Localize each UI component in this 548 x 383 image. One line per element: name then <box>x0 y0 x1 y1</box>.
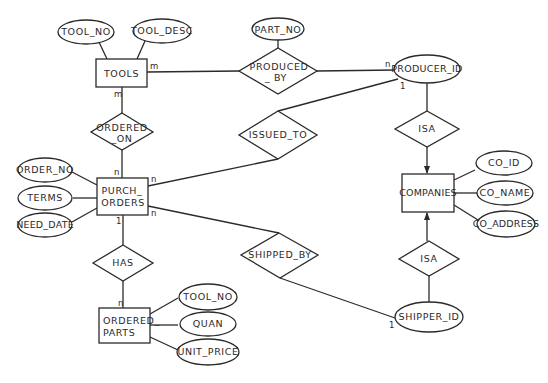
attribute-label: CO_NAME <box>480 187 531 198</box>
edge-tools-tooldesc <box>137 41 145 59</box>
arrowhead-icon <box>424 212 430 220</box>
attribute-part-no[interactable]: PART_NO <box>252 18 304 40</box>
cardinality-label: m <box>114 89 122 99</box>
attribute-need-date[interactable]: NEED_DATE <box>16 213 74 237</box>
attribute-label: TERMS <box>26 192 63 203</box>
attribute-label: ORDER_NO <box>16 164 74 175</box>
relationship-produced-by[interactable]: PRODUCED _ BY <box>239 48 317 94</box>
edge-op-toolno <box>150 298 178 314</box>
entity-label: COMPANIES <box>399 187 457 198</box>
attribute-tool-no[interactable]: TOOL_NO <box>58 20 114 44</box>
edge-po-needdate <box>72 208 97 222</box>
entity-companies[interactable]: COMPANIES <box>399 174 457 212</box>
cardinality-label: m <box>150 61 158 71</box>
relationship-shipped-by[interactable]: SHIPPED_BY <box>241 233 318 278</box>
attribute-label: UNIT_PRICE <box>177 346 238 357</box>
arrowhead-icon <box>424 166 430 174</box>
cardinality-label: n <box>151 208 156 218</box>
entity-label: ORDERED_ <box>103 315 160 326</box>
attribute-label: PART_NO <box>255 24 302 35</box>
relationship-issued-to[interactable]: ISSUED_TO <box>239 111 317 159</box>
relationship-has[interactable]: HAS <box>93 245 153 281</box>
edge-po-shippedby <box>148 206 279 233</box>
cardinality-label: 1 <box>389 320 394 330</box>
relationship-isa-bottom[interactable]: ISA <box>399 241 459 276</box>
attribute-order-no[interactable]: ORDER_NO <box>16 158 74 182</box>
entity-tools[interactable]: TOOLS <box>96 59 147 87</box>
relationship-label: HAS <box>112 257 133 268</box>
relationship-ordered-on[interactable]: ORDERED _ON <box>91 113 153 150</box>
attribute-label: CO_ID <box>488 157 520 168</box>
cardinality-label: n <box>118 298 123 308</box>
er-diagram: TOOLS PURCH_ ORDERS ORDERED_ PARTS COMPA… <box>0 0 548 383</box>
attribute-label: NEED_DATE <box>16 219 74 230</box>
relationship-label: _ON <box>110 133 132 144</box>
attribute-label: TOOL_NO <box>182 291 233 302</box>
relationship-label: PRODUCED <box>250 61 309 72</box>
entity-label: PURCH_ <box>102 185 143 196</box>
edge-shippedby-shipper <box>280 278 395 318</box>
attribute-co-id[interactable]: CO_ID <box>476 151 532 175</box>
entity-label: TOOLS <box>103 68 139 79</box>
attribute-tool-desc[interactable]: TOOL_DESC <box>130 19 193 43</box>
attribute-terms[interactable]: TERMS <box>18 186 72 210</box>
attribute-producer-id[interactable]: PRODUCER_ID <box>391 55 462 83</box>
cardinality-label: n <box>114 167 119 177</box>
attribute-unit-price[interactable]: UNIT_PRICE <box>177 339 239 365</box>
attribute-op-tool-no[interactable]: TOOL_NO <box>179 284 237 310</box>
entity-label: PARTS <box>103 327 135 338</box>
entity-label: ORDERS <box>101 197 145 208</box>
cardinality-label: 1 <box>116 216 121 226</box>
attribute-label: QUAN <box>193 318 223 329</box>
attribute-quan[interactable]: QUAN <box>180 312 236 336</box>
edge-companies-coid <box>454 170 475 180</box>
relationship-label: _ BY <box>264 72 287 83</box>
cardinality-label: n <box>151 174 156 184</box>
relationship-label: ISA <box>418 123 435 134</box>
relationship-isa-top[interactable]: ISA <box>395 111 459 147</box>
attribute-label: TOOL_DESC <box>130 25 193 36</box>
relationship-label: ISSUED_TO <box>249 129 308 140</box>
attribute-label: CO_ADDRESS <box>473 218 540 229</box>
relationship-label: ORDERED <box>96 122 148 133</box>
attribute-label: TOOL_NO <box>60 26 111 37</box>
cardinalities: m m n 1 n n n 1 n 1 <box>114 59 405 330</box>
attribute-co-name[interactable]: CO_NAME <box>477 181 533 205</box>
entity-purch-orders[interactable]: PURCH_ ORDERS <box>97 178 148 215</box>
attribute-shipper-id[interactable]: SHIPPER_ID <box>395 302 463 332</box>
edge-tools-producedby <box>147 71 239 72</box>
attribute-label: PRODUCER_ID <box>391 63 462 74</box>
attribute-label: SHIPPER_ID <box>399 311 460 322</box>
edge-po-issuedto <box>148 159 278 186</box>
cardinality-label: 1 <box>400 81 405 91</box>
relationship-label: ISA <box>420 253 437 264</box>
edge-op-unitprice <box>150 337 178 350</box>
edge-producedby-producer <box>317 70 396 71</box>
attribute-co-address[interactable]: CO_ADDRESS <box>473 211 540 237</box>
relationship-label: SHIPPED_BY <box>248 249 311 260</box>
cardinality-label: n <box>385 59 390 69</box>
edge-po-orderno <box>72 172 97 185</box>
